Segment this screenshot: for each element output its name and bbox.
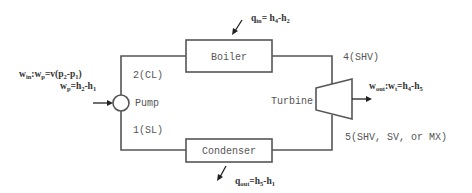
pump: Pump (113, 95, 159, 111)
pipe-boiler-to-turbine (272, 56, 332, 84)
q-in-equation: qin= h4-h2 (251, 13, 290, 24)
rankine-cycle-diagram: Boiler Condenser Turbine Pump 2(CL) 1(SL… (0, 0, 472, 193)
turbine: Turbine (271, 79, 352, 119)
w-p-equation: wp=h2-h1 (60, 81, 96, 92)
condenser-label: Condenser (202, 146, 256, 157)
pump-circle (113, 95, 129, 111)
state-4-label: 4(SHV) (343, 52, 379, 63)
boiler: Boiler (186, 40, 272, 72)
turbine-shape (316, 79, 352, 119)
state-5-label: 5(SHV, SV, or MX) (345, 132, 447, 143)
heat-in-arrow (232, 20, 242, 35)
state-1-label: 1(SL) (133, 125, 163, 136)
pipe-turbine-to-condenser (272, 115, 332, 150)
heat-out-arrow (217, 166, 226, 181)
condenser: Condenser (186, 139, 272, 162)
pump-label: Pump (135, 98, 159, 109)
work-in-arrow (93, 100, 113, 106)
turbine-label: Turbine (271, 96, 313, 107)
w-in-equation: win:wp=v(p2-p1) (19, 69, 82, 80)
state-2-label: 2(CL) (133, 70, 163, 81)
w-out-equation: wout:wt=h4-h5 (369, 81, 424, 92)
q-out-equation: qout=h5-h1 (235, 176, 275, 187)
boiler-label: Boiler (211, 52, 247, 63)
work-out-arrow (352, 96, 372, 102)
